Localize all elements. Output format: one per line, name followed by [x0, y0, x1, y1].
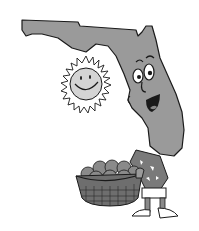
hand-icon	[136, 168, 144, 178]
florida-clipart	[0, 0, 199, 231]
smiling-sun-icon	[61, 56, 111, 113]
orange-basket	[76, 160, 144, 206]
florida-character-illustration	[0, 0, 199, 231]
left-shoe-icon	[132, 210, 150, 216]
right-shoe-icon	[158, 208, 178, 218]
